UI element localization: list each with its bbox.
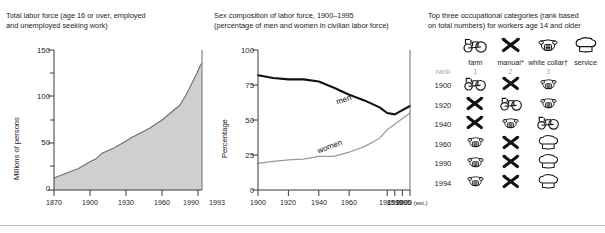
- crossed-tools-icon: [501, 135, 521, 150]
- telephone-icon: [538, 38, 558, 53]
- cell-1920-rank3: [528, 96, 568, 116]
- cell-1994-rank1: [458, 174, 493, 194]
- header-corner-cell: [428, 36, 458, 58]
- left-xtick-1930: 1930: [111, 198, 141, 207]
- panel-right-title: Top three occupational categories (rank …: [428, 0, 603, 30]
- table-header-name-row: farm manual* white collar† service: [428, 58, 603, 67]
- table-header-icon-row: [428, 36, 603, 58]
- cell-1900-rank2: [493, 76, 528, 96]
- crossed-tools-icon: [501, 174, 521, 189]
- row-year-1960: 1960: [428, 135, 458, 155]
- cell-1990-empty: [568, 154, 603, 174]
- mid-xtick-2000-est: (est.): [412, 199, 428, 206]
- mid-ytick-100: 100: [228, 46, 254, 55]
- row-year-1990: 1990: [428, 154, 458, 174]
- row-year-1900: 1900: [428, 76, 458, 96]
- cell-1920-rank2: [493, 96, 528, 116]
- cell-1994-rank2: [493, 174, 528, 194]
- cell-1920-rank1: [458, 96, 493, 116]
- area-chart: Millions of persons 150 100 50 0: [6, 40, 211, 200]
- rank-value-2: 2: [493, 67, 528, 76]
- table-row: 1994: [428, 174, 603, 194]
- cell-1940-rank2: [493, 115, 528, 135]
- telephone-icon: [467, 136, 484, 149]
- cell-1900-empty: [568, 76, 603, 96]
- telephone-icon: [540, 78, 557, 91]
- tractor-icon: [462, 37, 488, 53]
- mid-xtick-1940: 1940: [304, 198, 334, 207]
- table-row: 1960: [428, 135, 603, 155]
- tractor-icon: [536, 115, 560, 130]
- cell-1990-rank2: [493, 154, 528, 174]
- header-icon-manual: [493, 36, 528, 58]
- chef-hat-icon: [538, 174, 559, 189]
- chef-hat-icon: [538, 154, 559, 169]
- bottom-rule: [0, 225, 605, 226]
- rank-row-label: rank: [428, 67, 458, 76]
- line-series-men: [258, 75, 410, 114]
- chef-hat-icon: [538, 135, 559, 150]
- panel-sex-composition: Sex composition of labor force, 1900–199…: [214, 0, 426, 30]
- crossed-tools-icon: [500, 37, 522, 53]
- cell-1940-rank1: [458, 115, 493, 135]
- cell-1940-rank3: [528, 115, 568, 135]
- cell-1994-rank3: [528, 174, 568, 194]
- table-row: 1940: [428, 115, 603, 135]
- telephone-icon: [467, 156, 484, 169]
- rank-value-3: 3: [528, 67, 568, 76]
- area-series-total-labor-force: [54, 63, 202, 190]
- left-xtick-1900: 1900: [75, 198, 105, 207]
- panel-total-labor-force: Total labor force (age 16 or over, emplo…: [6, 0, 211, 30]
- rank-value-1: 1: [458, 67, 493, 76]
- panel-middle-title: Sex composition of labor force, 1900–199…: [214, 0, 426, 30]
- table-rank-row: rank 1 2 3: [428, 67, 603, 76]
- cell-1960-rank1: [458, 135, 493, 155]
- table-row: 1920: [428, 96, 603, 116]
- crossed-tools-icon: [465, 115, 485, 130]
- mid-ytick-75: 75: [228, 81, 254, 90]
- row-year-1940: 1940: [428, 115, 458, 135]
- area-chart-canvas: [6, 40, 211, 200]
- cell-1960-rank3: [528, 135, 568, 155]
- occupations-table: farm manual* white collar† service rank …: [428, 36, 603, 193]
- cell-1900-rank3: [528, 76, 568, 96]
- category-label-manual: manual*: [493, 58, 528, 67]
- left-xtick-1870: 1870: [39, 198, 69, 207]
- category-label-white-collar: white collar†: [528, 58, 568, 67]
- line-series-women: [258, 113, 410, 163]
- left-ytick-100: 100: [24, 92, 50, 101]
- mid-ytick-0: 0: [228, 186, 254, 195]
- header-icon-white-collar: [528, 36, 568, 58]
- crossed-tools-icon: [465, 96, 485, 111]
- cell-1990-rank1: [458, 154, 493, 174]
- cell-1920-empty: [568, 96, 603, 116]
- cell-1940-empty: [568, 115, 603, 135]
- telephone-icon: [467, 175, 484, 188]
- table-row: 1900: [428, 76, 603, 96]
- left-ytick-0: 0: [24, 184, 50, 193]
- table-row: 1990: [428, 154, 603, 174]
- category-label-farm: farm: [458, 58, 493, 67]
- mid-xtick-1960: 1960: [334, 198, 364, 207]
- cell-1960-rank2: [493, 135, 528, 155]
- row-year-1920: 1920: [428, 96, 458, 116]
- header-icon-farm: [458, 36, 493, 58]
- cell-1994-empty: [568, 174, 603, 194]
- cell-1990-rank3: [528, 154, 568, 174]
- mid-xtick-1920: 1920: [273, 198, 303, 207]
- mid-xtick-2000-year: 2000: [396, 198, 412, 207]
- rank-value-empty: [568, 67, 603, 76]
- line-chart: Percentage 100 75 50 25 0: [214, 40, 426, 200]
- left-y-axis-label: Millions of persons: [12, 117, 21, 180]
- header-icon-service: [568, 36, 603, 58]
- left-ytick-150: 150: [24, 46, 50, 55]
- panel-left-title: Total labor force (age 16 or over, emplo…: [6, 0, 211, 30]
- left-ytick-50: 50: [24, 138, 50, 147]
- telephone-icon: [540, 97, 557, 110]
- category-label-service: service: [568, 58, 603, 67]
- panel-top-occupations: Top three occupational categories (rank …: [428, 0, 603, 30]
- telephone-icon: [502, 117, 519, 130]
- mid-ytick-25: 25: [228, 151, 254, 160]
- tractor-icon: [463, 76, 487, 91]
- row-year-1994: 1994: [428, 174, 458, 194]
